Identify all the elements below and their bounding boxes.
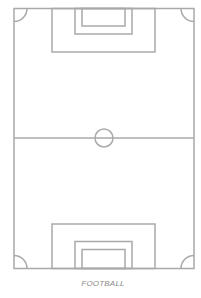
- corner-arc-top-left: [14, 9, 27, 22]
- corner-arc-bottom-right: [181, 256, 194, 269]
- corner-arc-top-right: [181, 9, 194, 22]
- bottom-penalty-box: [52, 224, 155, 269]
- corner-arc-bottom-left: [14, 256, 27, 269]
- bottom-goal-area: [75, 242, 132, 269]
- football-pitch: [0, 0, 201, 298]
- bottom-goal-box: [82, 250, 125, 269]
- diagram-title: FOOTBALL: [0, 279, 201, 288]
- top-goal-box: [82, 9, 125, 27]
- top-goal-area: [75, 9, 132, 35]
- top-penalty-box: [52, 9, 155, 53]
